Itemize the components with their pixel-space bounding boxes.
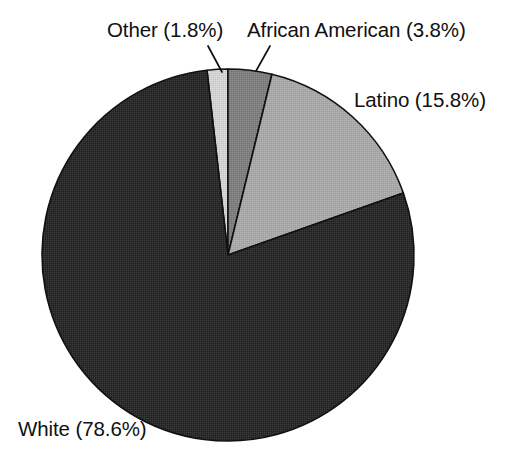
pie-slices-group <box>42 69 414 441</box>
slice-label-white: White (78.6%) <box>18 419 147 440</box>
leader-line-other <box>208 46 222 72</box>
leader-lines-group <box>208 46 270 72</box>
slice-label-other: Other (1.8%) <box>107 20 223 41</box>
pie-chart-figure: Other (1.8%) African American (3.8%) Lat… <box>0 0 506 467</box>
slice-label-african-american: African American (3.8%) <box>247 20 466 41</box>
slice-label-latino: Latino (15.8%) <box>354 90 486 111</box>
leader-line-african-american <box>256 46 270 71</box>
pie-chart-canvas <box>0 0 506 467</box>
